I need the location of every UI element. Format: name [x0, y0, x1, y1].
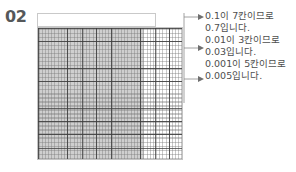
- arrow-right-icon: [198, 14, 204, 20]
- problem-number: 02: [5, 9, 26, 25]
- grid-body: [37, 27, 183, 160]
- explanation-tenths-line2: 0.7입니다.: [205, 22, 296, 34]
- explanation-item-hundredths: 0.01이 3칸이므로 0.03입니다.: [205, 34, 296, 57]
- grid-top-band: [37, 13, 156, 27]
- explanation-list: 0.1이 7칸이므로 0.7입니다. 0.01이 3칸이므로 0.03입니다. …: [205, 10, 296, 83]
- shaded-region-thousandths: [143, 28, 144, 159]
- explanation-tenths-line1: 0.1이 7칸이므로: [205, 10, 296, 22]
- explanation-item-tenths: 0.1이 7칸이므로 0.7입니다.: [205, 10, 296, 33]
- arrow-right-icon: [198, 76, 204, 82]
- explanation-thousandths-line1: 0.001이 5칸이므로: [205, 58, 296, 70]
- shaded-region-tenths: [38, 28, 139, 159]
- decimal-grid-figure: [37, 13, 183, 160]
- callout-leader-lines: [183, 10, 205, 106]
- explanation-item-thousandths: 0.001이 5칸이므로 0.005입니다.: [205, 58, 296, 81]
- arrow-right-icon: [198, 45, 204, 51]
- explanation-hundredths-line1: 0.01이 3칸이므로: [205, 34, 296, 46]
- explanation-hundredths-line2: 0.03입니다.: [205, 46, 296, 58]
- explanation-thousandths-line2: 0.005입니다.: [205, 70, 296, 82]
